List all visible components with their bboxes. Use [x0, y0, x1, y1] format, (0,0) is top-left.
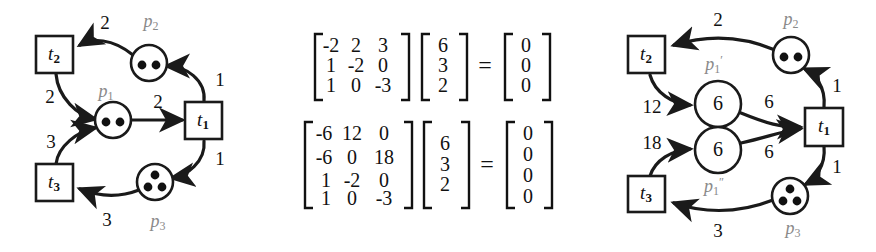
right-petri-net: t2 t1 t3 6 6 p2 [628, 9, 843, 241]
t2-sub: 2 [645, 51, 652, 66]
result-left-bracket [507, 122, 515, 208]
weight-p2-to-t2: 2 [713, 9, 723, 30]
arc-p3-to-t3 [674, 200, 773, 211]
token [786, 185, 795, 194]
arc-t1-to-p3 [806, 146, 824, 184]
transition-t1[interactable]: t1 [185, 102, 222, 139]
weight-p3-to-t3: 3 [713, 220, 723, 241]
place-name-p3: p3 [149, 211, 166, 233]
place-p1-double-prime-value: 6 [713, 138, 723, 160]
place-name-p1-prime: p1′ [703, 53, 723, 76]
m1-r0-c2: 3 [378, 34, 388, 56]
m1-r2-c1: 0 [351, 74, 361, 96]
place-p3[interactable] [772, 178, 808, 214]
right-bracket [401, 34, 409, 100]
left-petri-net: t2 t1 t3 p2 p1 p3 [36, 11, 225, 233]
vector-left-bracket [422, 34, 430, 100]
place-p1[interactable] [95, 102, 131, 138]
r2-r2: 0 [523, 164, 533, 186]
token [152, 61, 161, 70]
equation-2: -6 12 0 -6 0 18 1 -2 0 1 0 -3 6 3 2 = 0 … [305, 122, 552, 209]
v1-r1: 3 [438, 54, 448, 76]
token [151, 171, 160, 180]
m1-r2-c0: 1 [326, 74, 336, 96]
place-p2[interactable] [773, 37, 809, 73]
equals-sign: = [478, 52, 492, 78]
token [158, 183, 167, 192]
m2-r0-c0: -6 [316, 122, 333, 144]
token [116, 118, 125, 127]
m2-r1-c2: 18 [374, 146, 394, 168]
m1-r0-c1: 2 [351, 34, 361, 56]
equals-sign: = [480, 151, 494, 177]
m2-r0-c2: 0 [379, 122, 389, 144]
token [780, 53, 789, 62]
m2-r0-c1: 12 [342, 122, 362, 144]
place-name-p3: p3 [784, 218, 801, 240]
place-p3[interactable] [137, 164, 173, 200]
m1-r1-c0: 1 [326, 54, 336, 76]
token [779, 197, 788, 206]
transition-t2[interactable]: t2 [36, 36, 73, 73]
place-name-p2: p2 [142, 11, 159, 33]
weight-t1-to-p3: 1 [215, 148, 225, 169]
weight-t1-to-p2: 1 [215, 69, 225, 90]
r1-r2: 0 [521, 74, 531, 96]
t2-sub: 2 [53, 51, 60, 66]
place-p1-double-prime[interactable]: 6 [695, 127, 741, 173]
arc-p2-to-t2 [674, 38, 775, 50]
place-name-p1-double-prime: p1″ [702, 175, 724, 198]
vector-left-bracket [424, 122, 432, 208]
place-p1-prime[interactable]: 6 [695, 81, 741, 127]
equations-block: -2 2 3 1 -2 0 1 0 -3 6 3 2 = 0 0 0 -6 [305, 34, 552, 209]
v1-r0: 6 [438, 34, 448, 56]
r2-r1: 0 [523, 143, 533, 165]
m1-r1-c1: -2 [348, 54, 365, 76]
token [102, 118, 111, 127]
vector-right-bracket [459, 34, 467, 100]
m2-r1-c1: 0 [347, 146, 357, 168]
place-p2[interactable] [131, 45, 167, 81]
right-bracket [404, 122, 412, 208]
v2-r2: 2 [440, 173, 450, 195]
m1-r1-c2: 0 [378, 54, 388, 76]
token [138, 61, 147, 70]
t3-sub: 3 [645, 190, 652, 205]
m2-r3-c0: 1 [321, 187, 331, 209]
token [794, 53, 803, 62]
r1-r1: 0 [521, 54, 531, 76]
transition-t1[interactable]: t1 [805, 108, 843, 146]
m2-r3-c1: 0 [347, 187, 357, 209]
arc-p2-to-t2 [80, 41, 133, 55]
result-right-bracket [542, 34, 550, 100]
equation-1: -2 2 3 1 -2 0 1 0 -3 6 3 2 = 0 0 0 [315, 34, 550, 100]
m1-r0-c0: -2 [323, 34, 340, 56]
weight-p1prime-to-t1: 6 [764, 91, 774, 112]
v2-r0: 6 [440, 132, 450, 154]
v1-r2: 2 [438, 74, 448, 96]
t1-sub: 1 [823, 123, 830, 138]
r1-r0: 0 [521, 34, 531, 56]
arc-t1-to-p2 [167, 66, 204, 101]
weight-p1dprime-to-t1: 6 [764, 141, 774, 162]
weight-t3-to-p1: 3 [46, 131, 56, 152]
r2-r3: 0 [523, 185, 533, 207]
token [793, 197, 802, 206]
place-name-p1: p1 [97, 81, 114, 103]
m2-r1-c0: -6 [316, 146, 333, 168]
result-left-bracket [505, 34, 513, 100]
weight-p2-to-t2: 2 [100, 12, 110, 33]
place-p1-prime-value: 6 [713, 92, 723, 114]
arc-t1-to-p2 [805, 69, 824, 107]
weight-t2-to-p1prime: 12 [643, 96, 662, 117]
arc-t2-to-p1 [56, 74, 95, 119]
left-bracket [305, 122, 313, 208]
petri-net-figure: t2 t1 t3 p2 p1 p3 [0, 0, 876, 252]
arc-p1prime-to-t1 [741, 113, 800, 127]
arc-t3-to-p1 [56, 128, 95, 164]
transition-t3[interactable]: t3 [36, 164, 73, 201]
transition-t3[interactable]: t3 [628, 176, 665, 212]
m2-r3-c2: -3 [376, 187, 393, 209]
vector-right-bracket [461, 122, 469, 208]
transition-t2[interactable]: t2 [628, 36, 665, 73]
